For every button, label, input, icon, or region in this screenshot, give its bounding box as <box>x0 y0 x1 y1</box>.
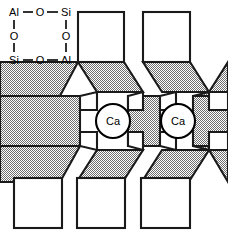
atom-label-si-top-right: Si <box>61 6 71 18</box>
atom-label-o-top-mid: O <box>36 6 45 18</box>
crystal-structure-figure: Ca Ca Al O Si O O Si O Al <box>0 0 228 240</box>
atom-label-al-top-left: Al <box>9 6 19 18</box>
cavity-2-lower-wedge <box>143 150 209 180</box>
ca-label-1: Ca <box>106 115 121 127</box>
atom-label-al-bottom-right: Al <box>61 54 71 66</box>
cavity-1-right-notch-lower <box>128 132 143 150</box>
cavity-1-upper-wedge <box>78 62 143 92</box>
cavity-2-upper-wedge <box>143 62 209 92</box>
cavity-2-right-notch <box>209 92 228 110</box>
band-left-upper-trapezoid <box>0 62 78 96</box>
atom-label-si-bottom-left: Si <box>9 54 19 66</box>
atom-label-o-mid-right: O <box>62 30 71 42</box>
cavity-1-right-notch <box>128 92 143 110</box>
cavity-1-lower-wedge <box>78 150 143 180</box>
cavity-1-left-notch <box>80 92 97 110</box>
cavity-2-right-notch-lower <box>209 132 228 150</box>
lattice-diagram: Ca Ca Al O Si O O Si O Al <box>0 0 228 240</box>
bottom-square-3 <box>141 178 190 228</box>
ca-label-2: Ca <box>171 115 186 127</box>
formula-inset-group: Al O Si O O Si O Al <box>9 6 71 66</box>
band-left-rect <box>0 96 80 146</box>
bottom-square-2 <box>77 178 125 228</box>
bottom-square-1 <box>14 178 62 228</box>
top-square-2 <box>143 12 190 62</box>
cavity-1-left-notch-lower <box>80 132 97 150</box>
band-left-lower-trapezoid <box>0 146 80 182</box>
atom-label-o-bottom-mid: O <box>36 54 45 66</box>
atom-label-o-mid-left: O <box>10 30 19 42</box>
top-square-1 <box>78 12 124 62</box>
